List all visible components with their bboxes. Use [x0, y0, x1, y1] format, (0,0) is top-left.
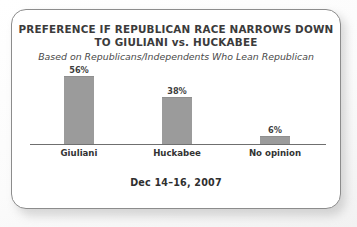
- bar-no-opinion: [260, 136, 290, 144]
- chart-card: PREFERENCE IF REPUBLICAN RACE NARROWS DO…: [11, 9, 341, 209]
- bar-slot-no-opinion: 6%: [226, 72, 324, 144]
- x-axis-baseline: [30, 144, 326, 145]
- bar-plot-area: 56% 38% 6%: [30, 72, 324, 144]
- chart-footer-date: Dec 14–16, 2007: [12, 177, 340, 188]
- chart-title-line-2: TO GIULIANI vs. HUCKABEE: [12, 36, 340, 49]
- bar-giuliani: [64, 76, 94, 144]
- category-label-no-opinion: No opinion: [226, 148, 324, 158]
- chart-card-stage: PREFERENCE IF REPUBLICAN RACE NARROWS DO…: [0, 0, 357, 227]
- category-label-huckabee: Huckabee: [128, 148, 226, 158]
- bar-slot-huckabee: 38%: [128, 72, 226, 144]
- chart-title-line-1: PREFERENCE IF REPUBLICAN RACE NARROWS DO…: [12, 23, 340, 36]
- bar-slot-giuliani: 56%: [30, 72, 128, 144]
- bar-huckabee: [162, 97, 192, 144]
- bar-value-label: 38%: [167, 86, 187, 96]
- bar-value-label: 56%: [69, 65, 89, 75]
- category-label-row: Giuliani Huckabee No opinion: [30, 148, 324, 162]
- chart-title-block: PREFERENCE IF REPUBLICAN RACE NARROWS DO…: [12, 23, 340, 62]
- category-label-giuliani: Giuliani: [30, 148, 128, 158]
- bar-value-label: 6%: [268, 125, 282, 135]
- chart-subtitle: Based on Republicans/Independents Who Le…: [12, 51, 340, 62]
